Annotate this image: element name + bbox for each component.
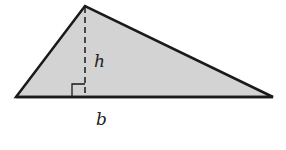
triangle-diagram: h b [0, 0, 286, 150]
base-label: b [96, 109, 107, 129]
triangle-shape [16, 6, 273, 97]
height-label: h [94, 51, 105, 71]
